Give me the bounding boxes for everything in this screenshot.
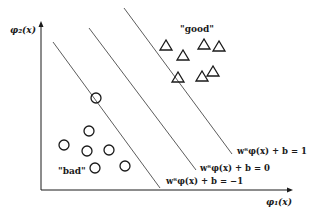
equation-zero: wᵀφ(x) + b = 0 (199, 163, 270, 173)
circle-icon (82, 146, 92, 156)
hyperplane-plus-one (124, 8, 232, 154)
circle-icon (90, 163, 100, 173)
good-points (160, 39, 225, 82)
triangle-icon (207, 66, 219, 76)
y-axis-label: φ₂(x) (10, 25, 36, 35)
equation-minus-one: wᵀφ(x) + b = −1 (165, 176, 243, 186)
circle-icon (84, 126, 94, 136)
circle-icon (104, 145, 114, 155)
triangle-icon (160, 40, 172, 50)
class-label-good: "good" (180, 24, 214, 34)
hyperplane-zero (89, 28, 196, 170)
triangle-icon (198, 39, 210, 49)
x-axis-label: φ₁(x) (266, 197, 292, 207)
triangle-icon (177, 50, 189, 60)
equation-plus-one: wᵀφ(x) + b = 1 (236, 146, 307, 156)
x-axis-arrow-icon (287, 188, 293, 193)
circle-icon (120, 161, 130, 171)
y-axis-arrow-icon (39, 21, 44, 27)
circle-icon (91, 93, 101, 103)
class-label-bad: "bad" (58, 166, 86, 176)
circle-icon (59, 140, 69, 150)
triangle-icon (213, 41, 225, 51)
hyperplanes (53, 8, 232, 188)
triangle-icon (196, 71, 208, 81)
svm-margin-diagram: φ₂(x) φ₁(x) wᵀφ(x) + b = 1 wᵀφ(x) + b = … (0, 0, 311, 215)
